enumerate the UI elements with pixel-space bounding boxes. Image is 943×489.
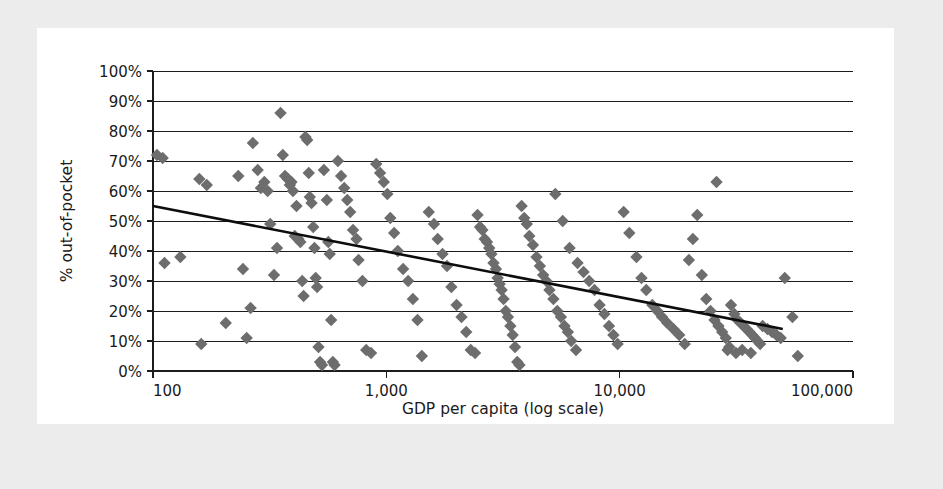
data-point [431,233,443,245]
x-axis-ticks [153,371,853,378]
data-point [779,272,791,284]
data-point [247,137,259,149]
y-tick-label: 0% [118,363,142,381]
data-point [445,281,457,293]
data-point [290,200,302,212]
y-axis-ticks [147,71,153,371]
data-point [296,275,308,287]
y-tick-label: 100% [99,63,142,81]
x-axis-title: GDP per capita (log scale) [402,400,604,418]
data-point [352,254,364,266]
data-point-markers [151,107,804,371]
data-point [623,227,635,239]
data-point [515,200,527,212]
data-point [696,269,708,281]
data-point [563,242,575,254]
data-point [338,182,350,194]
data-point [251,164,263,176]
data-point [174,251,186,263]
data-point [455,311,467,323]
data-point [700,293,712,305]
data-point [158,257,170,269]
data-point [381,188,393,200]
data-point [318,164,330,176]
data-point [710,176,722,188]
data-point [341,194,353,206]
data-point [402,275,414,287]
data-point [274,107,286,119]
data-point [325,314,337,326]
y-tick-label: 50% [109,213,142,231]
y-axis-tick-labels: 0%10%20%30%40%50%60%70%80%90%100% [99,63,142,381]
data-point [237,263,249,275]
data-point [311,281,323,293]
x-tick-label: 10,000 [593,382,646,400]
y-tick-label: 30% [109,273,142,291]
data-point [792,350,804,362]
data-point [388,227,400,239]
data-point [232,170,244,182]
data-point [308,242,320,254]
data-point [335,170,347,182]
data-point [683,254,695,266]
data-point [240,332,252,344]
scatter-chart: 0%10%20%30%40%50%60%70%80%90%100% 1001,0… [0,0,943,489]
y-tick-label: 10% [109,333,142,351]
data-point [450,299,462,311]
y-tick-label: 80% [109,123,142,141]
data-point [687,233,699,245]
x-axis-tick-labels: 1001,00010,000100,000 [153,382,853,400]
data-point [640,284,652,296]
data-point [549,188,561,200]
x-tick-label: 1,000 [365,382,408,400]
data-point [504,320,516,332]
data-point [195,338,207,350]
data-point [635,272,647,284]
data-point [356,275,368,287]
data-point [220,317,232,329]
data-point [630,251,642,263]
data-point [786,311,798,323]
data-point [321,194,333,206]
data-point [277,149,289,161]
data-point [471,209,483,221]
data-point [324,248,336,260]
y-tick-label: 90% [109,93,142,111]
data-point [617,206,629,218]
data-point [407,293,419,305]
data-point [411,314,423,326]
data-point [507,329,519,341]
data-point [332,155,344,167]
data-point [423,206,435,218]
y-tick-label: 20% [109,303,142,321]
data-point [460,326,472,338]
data-point [691,209,703,221]
data-point [557,215,569,227]
data-point [571,257,583,269]
data-point [303,167,315,179]
data-point [344,206,356,218]
data-point [428,218,440,230]
chart-plot-wrapper: 0%10%20%30%40%50%60%70%80%90%100% 1001,0… [0,0,943,489]
data-point [509,341,521,353]
y-tick-label: 70% [109,153,142,171]
x-tick-label: 100,000 [791,382,853,400]
y-tick-label: 40% [109,243,142,261]
y-axis-title: % out-of-pocket [58,160,76,283]
data-point [297,290,309,302]
data-point [497,293,509,305]
data-point [312,341,324,353]
data-point [436,248,448,260]
data-point [244,302,256,314]
x-tick-label: 100 [153,382,182,400]
y-tick-label: 60% [109,183,142,201]
data-point [416,350,428,362]
data-point [384,212,396,224]
data-point [397,263,409,275]
data-point [271,242,283,254]
data-point [307,221,319,233]
data-point [268,269,280,281]
figure-container: 0%10%20%30%40%50%60%70%80%90%100% 1001,0… [0,0,943,489]
